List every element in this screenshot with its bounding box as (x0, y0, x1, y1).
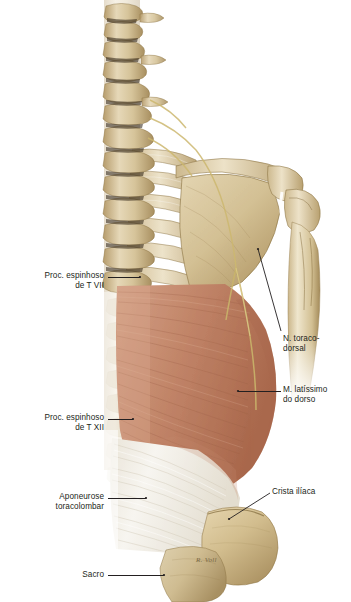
label-musculo-latissimo-do-dorso: M. latíssimo do dorso (283, 385, 349, 406)
anatomy-plate: Proc. espinhoso de T VII Proc. espinhoso… (0, 0, 351, 602)
sacrum-group (160, 546, 226, 602)
label-proc-espinhoso-t12: Proc. espinhoso de T XII (8, 413, 104, 434)
artist-signature: R. Voll (196, 556, 217, 564)
humerus-group (284, 222, 326, 404)
label-aponeurose-toracolombar: Aponeurose toracolombar (8, 492, 104, 513)
label-sacro: Sacro (28, 570, 104, 580)
label-nervo-toracodorsal: N. toraco- dorsal (283, 334, 349, 355)
label-crista-iliaca: Crista ilíaca (272, 487, 348, 497)
label-proc-espinhoso-t7: Proc. espinhoso de T VII (8, 271, 104, 292)
